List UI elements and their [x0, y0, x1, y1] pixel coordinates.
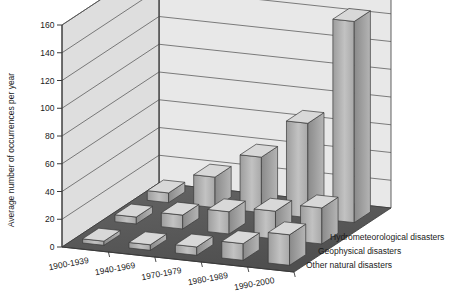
x-tick-label-1900-1939: 1900-1939	[48, 255, 90, 272]
y-tick-label-60: 60	[45, 159, 55, 169]
y-tick-label-40: 40	[45, 187, 55, 197]
x-tick-label-1940-1969: 1940-1969	[94, 260, 136, 277]
y-tick-label-120: 120	[40, 76, 54, 86]
bar-face-front	[208, 209, 229, 234]
bar-face-front	[333, 19, 354, 222]
chart-container: 020406080100120140160 1900-19391940-1969…	[0, 0, 460, 295]
bar-hydrometeorological-disasters-1990-2000	[333, 9, 371, 223]
x-tick-mark	[294, 272, 295, 277]
x-tick-mark	[248, 267, 249, 272]
x-tick-mark	[155, 257, 156, 262]
bar-face-front	[222, 241, 243, 260]
x-tick-label-1990-2000: 1990-2000	[233, 275, 275, 292]
x-tick-mark	[201, 262, 202, 267]
bar-face-front	[268, 232, 289, 265]
x-tick-label-1970-1979: 1970-1979	[141, 265, 183, 282]
bar-face-side	[354, 11, 370, 223]
y-tick-label-100: 100	[40, 103, 54, 113]
bar-face-front	[161, 213, 182, 229]
y-tick-label-0: 0	[50, 242, 55, 252]
y-tick-label-160: 160	[40, 20, 54, 30]
y-tick-label-80: 80	[45, 131, 55, 141]
legend-label-other-natural-disasters: Other natural disasters	[306, 260, 392, 270]
y-tick-label-140: 140	[40, 48, 54, 58]
legend-label-geophysical-disasters: Geophysical disasters	[318, 246, 401, 256]
y-tick-label-20: 20	[45, 214, 55, 224]
bar-face-front	[194, 175, 215, 208]
x-tick-label-1980-1989: 1980-1989	[187, 270, 229, 287]
3d-bar-chart: 020406080100120140160 1900-19391940-1969…	[0, 0, 460, 295]
legend-label-hydrometeorological-disasters: Hydrometeorological disasters	[330, 232, 444, 242]
y-axis-ticks: 020406080100120140160	[40, 20, 62, 252]
y-axis-title: Average number of occurrences per year	[6, 73, 16, 228]
x-tick-mark	[108, 252, 109, 257]
